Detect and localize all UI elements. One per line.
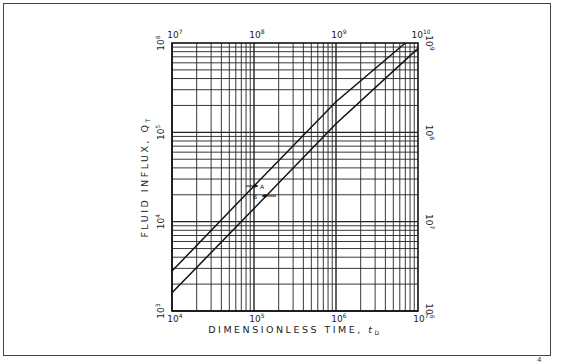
annotation-a-label: A: [260, 183, 265, 190]
y-tick-right: 107: [424, 214, 436, 229]
y-tick-right: 108: [424, 125, 436, 140]
y-axis-title: FLUID INFLUX, QT: [139, 116, 151, 237]
x-tick-bottom: 106: [331, 312, 346, 324]
x-tick-bottom: 105: [249, 312, 264, 324]
y-tick-left: 105: [154, 125, 166, 140]
log-log-chart: A B 104105106107107108109101010310410510…: [0, 0, 561, 364]
x-tick-bottom: 104: [167, 312, 182, 324]
x-axis-title: DIMENSIONLESS TIME, tD: [208, 324, 381, 336]
y-tick-right: 109: [424, 35, 436, 50]
series-line-b: [172, 48, 418, 292]
annotation-b-label: B: [253, 193, 257, 200]
x-tick-top: 109: [331, 28, 346, 40]
y-tick-left: 106: [154, 35, 166, 50]
x-tick-top: 108: [249, 28, 264, 40]
y-tick-left: 104: [154, 214, 166, 229]
y-tick-left: 103: [154, 303, 166, 318]
page-mark: 4: [537, 356, 541, 364]
series-line-a: [172, 43, 405, 271]
x-tick-top: 107: [167, 28, 182, 40]
